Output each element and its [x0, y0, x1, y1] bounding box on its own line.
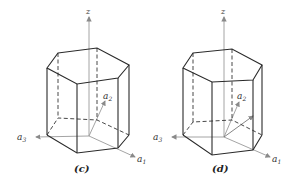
bottom-visible-edges — [47, 135, 129, 153]
hexagonal-prism-diagrams: z a3 a2 a1 (c) z a3 a2 a1 (d) — [0, 0, 293, 194]
figure-c: z a3 a2 a1 (c) — [17, 7, 146, 174]
a3-axis — [36, 136, 89, 137]
caption-d: (d) — [212, 163, 229, 174]
top-hexagon — [47, 48, 129, 84]
a1-axis — [89, 136, 135, 157]
a3-label: a3 — [17, 132, 26, 143]
hidden-base-edges — [183, 120, 262, 135]
caption-c: (c) — [74, 163, 90, 174]
a1-axis — [224, 137, 270, 157]
a1-label: a1 — [272, 154, 281, 165]
a2-label: a2 — [237, 91, 246, 102]
a3-label: a3 — [153, 132, 162, 143]
a1-label: a1 — [137, 154, 146, 165]
a2-label: a2 — [103, 91, 112, 102]
a2-axis — [89, 101, 105, 136]
hidden-base-edges — [47, 118, 129, 135]
z-label: z — [85, 7, 91, 16]
bottom-visible-edges — [183, 135, 262, 155]
z-label: z — [220, 7, 226, 16]
top-hexagon — [183, 49, 262, 82]
figure-d: z a3 a2 a1 (d) — [153, 7, 281, 174]
